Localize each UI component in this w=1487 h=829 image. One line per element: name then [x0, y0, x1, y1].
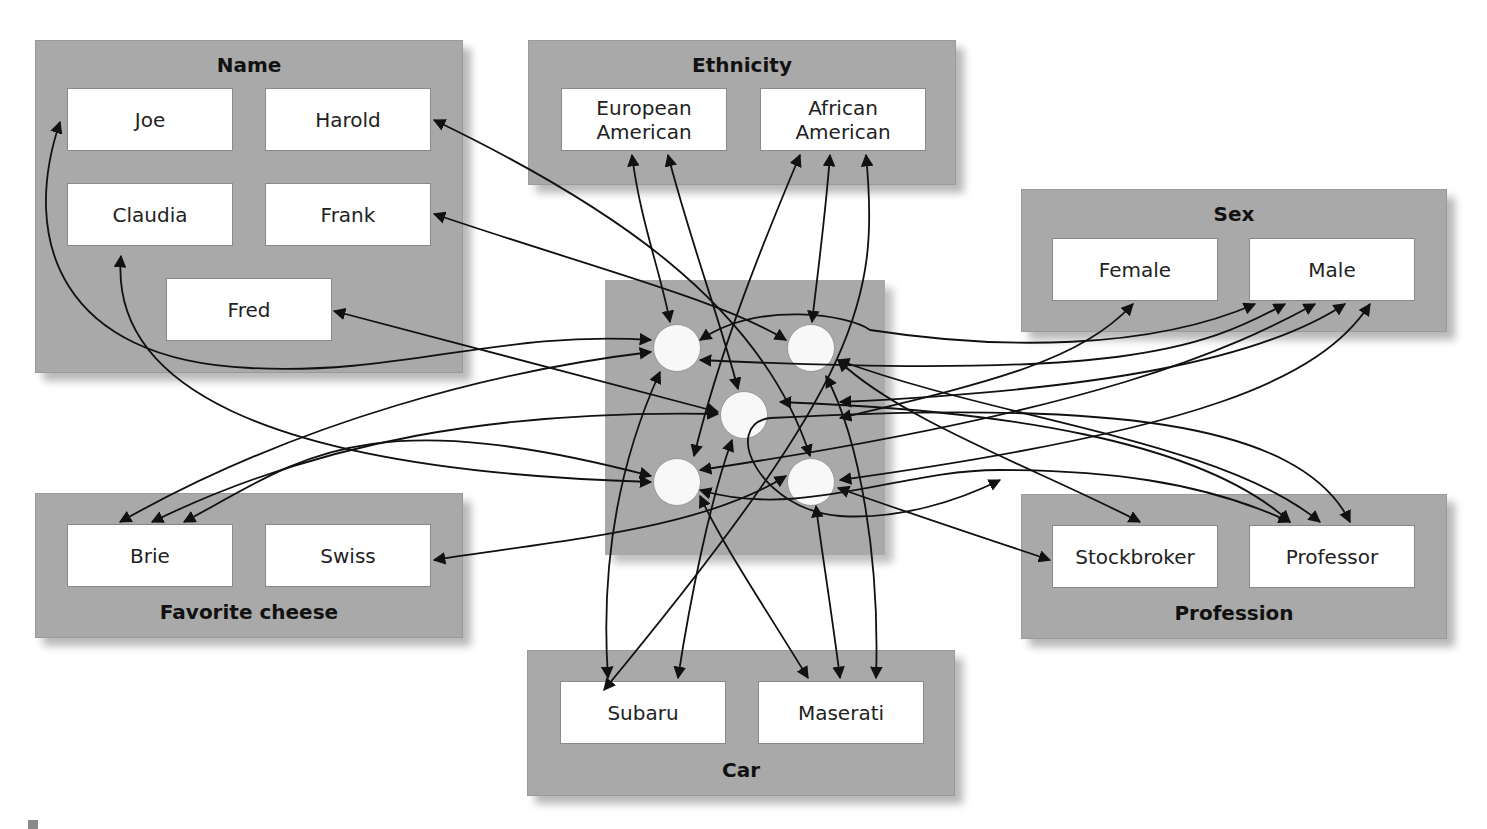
node-swiss[interactable]: Swiss	[265, 524, 431, 587]
node-joe[interactable]: Joe	[67, 88, 233, 151]
node-fred[interactable]: Fred	[166, 278, 332, 341]
group-title-sex: Sex	[1022, 202, 1446, 226]
node-professor[interactable]: Professor	[1249, 525, 1415, 588]
node-male[interactable]: Male	[1249, 238, 1415, 301]
corner-marker	[28, 820, 38, 829]
node-frank[interactable]: Frank	[265, 183, 431, 246]
node-stockbroker[interactable]: Stockbroker	[1052, 525, 1218, 588]
node-maserati[interactable]: Maserati	[758, 681, 924, 744]
hidden-unit-2[interactable]	[787, 324, 835, 372]
node-european-american[interactable]: European American	[561, 88, 727, 151]
node-female[interactable]: Female	[1052, 238, 1218, 301]
node-african-american[interactable]: African American	[760, 88, 926, 151]
node-claudia[interactable]: Claudia	[67, 183, 233, 246]
hidden-unit-3[interactable]	[720, 391, 768, 439]
node-brie[interactable]: Brie	[67, 524, 233, 587]
group-title-name: Name	[36, 53, 462, 77]
hidden-unit-1[interactable]	[653, 324, 701, 372]
group-title-car: Car	[528, 758, 954, 782]
hidden-unit-4[interactable]	[653, 458, 701, 506]
group-title-profession: Profession	[1022, 601, 1446, 625]
group-title-ethnicity: Ethnicity	[529, 53, 955, 77]
hidden-unit-5[interactable]	[787, 458, 835, 506]
group-title-favorite-cheese: Favorite cheese	[36, 600, 462, 624]
node-subaru[interactable]: Subaru	[560, 681, 726, 744]
node-harold[interactable]: Harold	[265, 88, 431, 151]
